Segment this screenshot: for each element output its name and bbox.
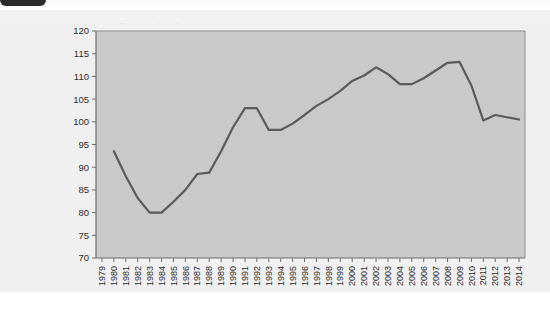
- x-tick-label: 2003: [383, 266, 393, 286]
- x-tick-label: 2014: [514, 266, 524, 286]
- x-tick-label: 2007: [431, 266, 441, 286]
- x-tick-label: 1995: [288, 266, 298, 286]
- x-tick-label: 1991: [240, 266, 250, 286]
- y-tick-label: 100: [73, 116, 89, 127]
- browser-tab[interactable]: [0, 0, 46, 6]
- x-tick-label: 2005: [407, 266, 417, 286]
- x-tick-label: 1990: [228, 266, 238, 286]
- chart-figure: 120115110105100959085807570 197919801981…: [0, 24, 550, 292]
- x-tick-label: 1984: [157, 266, 167, 286]
- x-tick-label: 1997: [312, 266, 322, 286]
- x-tick-label: 2004: [395, 266, 405, 286]
- document-header-band: Figure: index of real output, annual: [0, 10, 550, 24]
- y-tick-label: 120: [73, 25, 89, 36]
- x-tick-label: 1994: [276, 266, 286, 286]
- y-tick-label: 80: [78, 207, 89, 218]
- x-tick-label: 1988: [204, 266, 214, 286]
- x-tick-label: 1987: [192, 266, 202, 286]
- x-tick-label: 1980: [109, 266, 119, 286]
- x-tick-label: 1981: [121, 266, 131, 286]
- x-tick-label: 2012: [490, 266, 500, 286]
- x-tick-label: 2001: [359, 266, 369, 286]
- page-footer-band: [0, 292, 550, 316]
- x-axis-tick-labels: 1979198019811982198319841985198619871988…: [97, 266, 524, 286]
- x-tick-label: 1996: [300, 266, 310, 286]
- x-tick-label: 2009: [455, 266, 465, 286]
- x-tick-label: 1989: [216, 266, 226, 286]
- line-chart: 120115110105100959085807570 197919801981…: [0, 24, 550, 292]
- x-tick-label: 1998: [324, 266, 334, 286]
- x-tick-label: 1993: [264, 266, 274, 286]
- toolbar-background: [0, 0, 550, 8]
- x-tick-label: 1979: [97, 266, 107, 286]
- y-tick-label: 115: [74, 48, 89, 59]
- x-tick-label: 2010: [467, 266, 477, 286]
- x-tick-label: 1999: [335, 266, 345, 286]
- y-tick-label: 95: [78, 139, 89, 150]
- x-tick-label: 1983: [145, 266, 155, 286]
- x-tick-label: 1985: [169, 266, 179, 286]
- x-tick-label: 1986: [181, 266, 191, 286]
- y-tick-label: 90: [78, 162, 89, 173]
- y-tick-label: 105: [73, 94, 89, 105]
- y-tick-label: 110: [74, 71, 89, 82]
- y-tick-label: 70: [78, 252, 89, 263]
- y-tick-label: 85: [78, 184, 89, 195]
- x-tick-label: 2006: [419, 266, 429, 286]
- x-tick-label: 2013: [502, 266, 512, 286]
- x-tick-label: 2000: [347, 266, 357, 286]
- y-tick-label: 75: [78, 230, 89, 241]
- x-tick-label: 2008: [443, 266, 453, 286]
- x-tick-label: 1982: [133, 266, 143, 286]
- x-tick-label: 2011: [478, 266, 488, 285]
- app-chrome-strip: [0, 0, 550, 10]
- x-tick-label: 1992: [252, 266, 262, 286]
- x-tick-label: 2002: [371, 266, 381, 286]
